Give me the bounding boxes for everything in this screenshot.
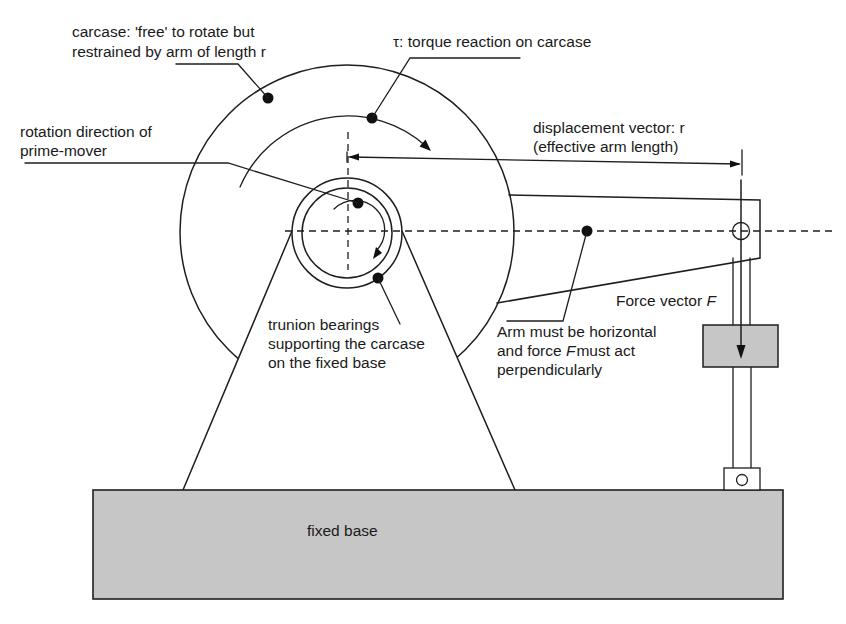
dimension-left-arrowhead-icon — [348, 154, 359, 161]
displacement-label-line1: displacement vector: r — [533, 119, 685, 136]
dynamometer-diagram: carcase: 'free' to rotate but restrained… — [0, 0, 846, 624]
rotation-label-line1: rotation direction of — [20, 123, 153, 140]
torque-label: τ: torque reaction on carcase — [393, 33, 591, 50]
torque-arc — [240, 116, 427, 187]
arm-label-line2: and force Fmust act — [497, 342, 636, 359]
force-vector-symbol: F — [706, 292, 717, 309]
arm-label-line2-post: must act — [576, 342, 635, 359]
force-vector-label-text: Force vector — [616, 292, 706, 309]
support-stand-fill — [183, 176, 515, 490]
displacement-label-line2: (effective arm length) — [533, 138, 678, 155]
bearings-label-line3: on the fixed base — [268, 354, 386, 371]
arm-label-force-symbol: F — [566, 342, 577, 359]
dimension-right-arrowhead-icon — [730, 161, 741, 168]
torque-leader-line — [372, 58, 520, 118]
bearings-label-line2: supporting the carcase — [268, 335, 425, 352]
carcase-label-line2: restrained by arm of length r — [72, 43, 266, 60]
rotation-label-line2: prime-mover — [20, 142, 107, 159]
arm-label-line3: perpendicularly — [497, 361, 602, 378]
base-bracket — [724, 468, 760, 490]
force-vector-label: Force vector F — [616, 292, 717, 309]
torque-arm-outline — [497, 195, 760, 303]
bearings-label-line1: trunion bearings — [268, 316, 379, 333]
fixed-base-label: fixed base — [307, 522, 378, 539]
fixed-base — [93, 490, 783, 599]
arm-label-line2-pre: and force — [497, 342, 566, 359]
arm-label-line1: Arm must be horizontal — [497, 323, 656, 340]
displacement-dimension-line — [350, 157, 739, 164]
carcase-label-line1: carcase: 'free' to rotate but — [72, 23, 255, 40]
arm-leader-line — [507, 231, 587, 321]
